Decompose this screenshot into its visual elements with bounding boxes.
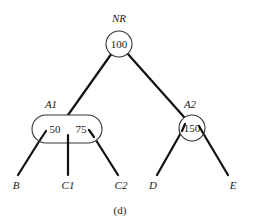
edge-a1-c2 bbox=[94, 137, 118, 175]
leaf-label-b: B bbox=[13, 179, 20, 191]
node-key: 150 bbox=[184, 122, 201, 134]
edge-a2-d bbox=[157, 131, 182, 175]
edge-nr-a1 bbox=[68, 53, 112, 115]
node-root: NR 100 bbox=[106, 12, 132, 57]
node-key: 50 bbox=[50, 123, 62, 135]
figure-caption: (d) bbox=[114, 204, 127, 217]
node-label-a1: A1 bbox=[44, 98, 57, 110]
leaf-label-c2: C2 bbox=[115, 179, 128, 191]
edge-a1-b bbox=[18, 140, 40, 175]
node-label-nr: NR bbox=[111, 12, 126, 24]
tree-diagram: NR 100 A1 50 75 A2 150 B C1 C2 D E (d) bbox=[0, 0, 255, 223]
node-a2: A2 150 bbox=[179, 98, 205, 141]
leaf-label-c1: C1 bbox=[62, 179, 75, 191]
leaf-label-d: D bbox=[148, 179, 157, 191]
node-key: 75 bbox=[76, 123, 88, 135]
node-label-a2: A2 bbox=[183, 98, 197, 110]
edge-nr-a2 bbox=[127, 53, 184, 117]
edge-a2-e bbox=[203, 133, 228, 175]
node-key: 100 bbox=[111, 38, 128, 50]
leaf-label-e: E bbox=[229, 179, 237, 191]
